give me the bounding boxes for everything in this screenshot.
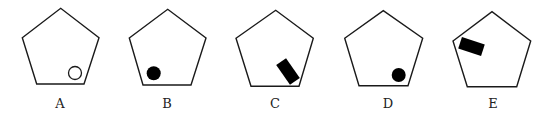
- hollow-circle-icon: [69, 67, 82, 80]
- option-label-a: A: [54, 96, 65, 111]
- filled-circle-icon: [147, 66, 161, 80]
- option-label-e: E: [488, 96, 498, 111]
- pentagon-c: [236, 10, 313, 86]
- option-label-d: D: [383, 96, 393, 111]
- pentagon-d: [345, 11, 423, 86]
- option-c[interactable]: C: [236, 10, 313, 111]
- option-a[interactable]: A: [22, 8, 99, 111]
- pentagon-a: [22, 8, 99, 84]
- option-b[interactable]: B: [129, 9, 206, 111]
- filled-circle-icon: [392, 68, 406, 82]
- option-d[interactable]: D: [345, 11, 423, 111]
- option-label-c: C: [270, 96, 280, 111]
- option-label-b: B: [162, 96, 172, 111]
- option-e[interactable]: E: [453, 12, 531, 111]
- pentagon-b: [129, 9, 206, 85]
- pentagon-figure: A B C D E: [0, 0, 552, 118]
